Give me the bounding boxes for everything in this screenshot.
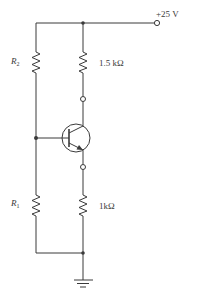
r1-label-sub: 1 xyxy=(17,203,20,209)
r1-label: R1 xyxy=(11,199,20,209)
rc-resistor-icon xyxy=(79,52,87,73)
emitter-terminal xyxy=(81,165,86,170)
supply-terminal xyxy=(154,20,159,25)
ground-icon xyxy=(74,280,93,287)
re-label: 1kΩ xyxy=(99,202,115,211)
r1-resistor-icon xyxy=(32,195,40,216)
supply-label: +25 V xyxy=(156,10,179,19)
re-resistor-icon xyxy=(79,195,87,216)
collector-terminal xyxy=(81,97,86,102)
r2-resistor-icon xyxy=(32,52,40,73)
circuit-schematic xyxy=(0,0,201,297)
r2-label: R2 xyxy=(11,57,20,67)
r2-label-sub: 2 xyxy=(17,61,20,67)
rc-label: 1.5 kΩ xyxy=(99,59,124,68)
